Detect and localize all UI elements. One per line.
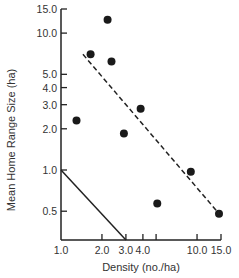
data-point [104, 16, 112, 24]
y-tick-label: 3.0 [42, 99, 57, 111]
data-point [107, 58, 115, 66]
x-tick-label: 1.0 [54, 244, 69, 256]
y-tick-label: 5.0 [42, 68, 57, 80]
regression-line [83, 54, 219, 213]
reference-line [61, 170, 126, 240]
y-tick-label: 1.0 [42, 164, 57, 176]
x-axis-label: Density (no./ha) [102, 261, 180, 273]
y-tick-label: 4.0 [42, 82, 57, 94]
data-point [120, 129, 128, 137]
x-tick-label: 2.0 [95, 244, 110, 256]
data-point [153, 199, 161, 207]
scatter-chart: 0.51.02.03.04.05.010.015.01.02.03.04.010… [0, 0, 239, 278]
axes: 0.51.02.03.04.05.010.015.01.02.03.04.010… [37, 3, 232, 256]
y-tick-label: 10.0 [37, 27, 58, 39]
y-tick-label: 15.0 [37, 3, 58, 15]
y-tick-label: 2.0 [42, 123, 57, 135]
plot-area [61, 16, 223, 240]
y-tick-label: 0.5 [42, 205, 57, 217]
data-point [87, 50, 95, 58]
x-tick-label: 10.0 [187, 244, 208, 256]
y-axis-label: Mean Home Range Size (ha) [5, 69, 17, 211]
x-tick-label: 4.0 [136, 244, 151, 256]
data-point [73, 116, 81, 124]
x-tick-label: 3.0 [119, 244, 134, 256]
data-point [137, 105, 145, 113]
x-tick-label: 15.0 [211, 244, 232, 256]
data-point [187, 168, 195, 176]
